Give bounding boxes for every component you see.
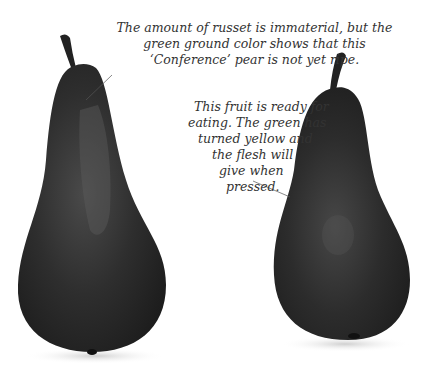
caption-line: give when (188, 163, 338, 179)
caption-line: turned yellow and (188, 131, 338, 147)
unripe-pear-caption: The amount of russet is immaterial, but … (92, 20, 417, 68)
ripe-pear (274, 52, 410, 352)
ripe-pear-caption: This fruit is ready for eating. The gree… (188, 99, 338, 195)
caption-line: pressed. (188, 179, 338, 195)
caption-line: This fruit is ready for (188, 99, 338, 115)
caption-line: ‘Conference’ pear is not yet ripe. (92, 52, 417, 68)
stem-left (60, 34, 76, 70)
caption-line: The amount of russet is immaterial, but … (92, 20, 417, 36)
caption-line: the flesh will (188, 147, 338, 163)
caption-line: green ground color shows that this (92, 36, 417, 52)
caption-line: eating. The green has (188, 115, 338, 131)
unripe-pear (18, 34, 166, 364)
